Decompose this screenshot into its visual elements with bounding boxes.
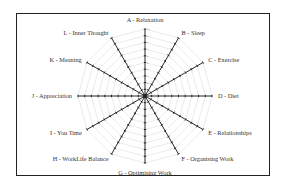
tick-label: 6 <box>147 55 149 58</box>
axes <box>78 29 212 163</box>
category-label-b: B - Sleep <box>182 29 205 36</box>
category-label-e: E - Relationships <box>208 129 252 136</box>
category-label-f: F - Organising Work <box>182 155 235 162</box>
tick-label: 5 <box>147 62 149 65</box>
center-hub <box>143 94 147 98</box>
category-label-l: L - Inner Thought <box>64 29 109 36</box>
category-label-d: D - Diet <box>218 92 239 99</box>
category-label-c: C - Exercise <box>208 56 239 63</box>
category-label-j: J - Appreciation <box>32 92 73 99</box>
tick-labels: 12345678910 <box>147 28 150 91</box>
tick-label: 3 <box>147 75 149 78</box>
category-label-h: H - WorkLife Balance <box>53 155 109 162</box>
tick-label: 10 <box>147 28 150 31</box>
category-label-i: I - You Time <box>50 129 82 136</box>
tick-label: 7 <box>147 48 149 51</box>
tick-label: 4 <box>147 68 149 71</box>
tick-label: 2 <box>147 82 149 85</box>
category-label-g: G - Optimising Work <box>118 169 172 176</box>
category-label-a: A - Relaxation <box>127 16 165 23</box>
radar-chart: 12345678910 A - RelaxationB - SleepC - E… <box>0 0 288 187</box>
category-label-k: K - Meaning <box>50 56 83 63</box>
tick-label: 8 <box>147 41 149 44</box>
tick-label: 9 <box>147 35 149 38</box>
